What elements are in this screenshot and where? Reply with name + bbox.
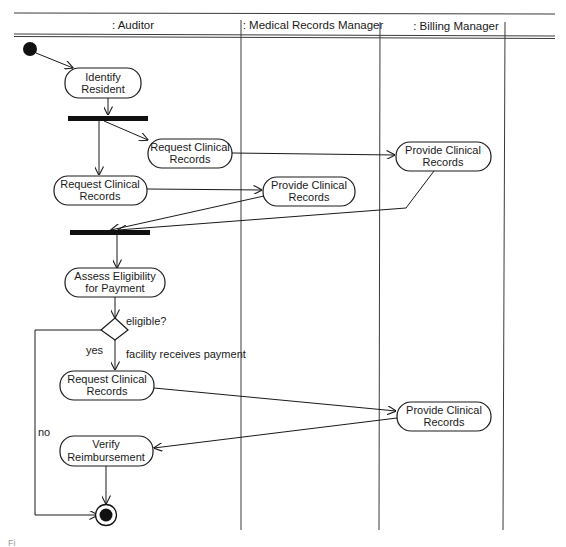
lane-separator-2 [379, 22, 380, 530]
header-divider-2 [14, 37, 555, 39]
edge-fork-request-a [104, 121, 148, 140]
swimlane-header: : Auditor : Medical Records Manager : Bi… [14, 13, 555, 39]
header-divider-1 [14, 34, 555, 36]
top-border [14, 13, 555, 14]
svg-text:Records: Records [289, 191, 330, 203]
action-assess-eligibility: Assess Eligibility for Payment [65, 268, 165, 297]
svg-text:Records: Records [423, 156, 464, 168]
guard-facility-payment: facility receives payment [126, 348, 246, 360]
final-node [96, 505, 117, 526]
guard-no: no [38, 426, 50, 438]
lane-label-medical-records-manager: : Medical Records Manager [243, 19, 384, 31]
lane-separator-3 [503, 22, 505, 530]
svg-text:Records: Records [87, 385, 128, 397]
edge-provide-bm2-verify [154, 418, 397, 448]
initial-node [23, 42, 37, 56]
svg-text:Records: Records [170, 153, 211, 165]
figure-caption-fragment: Fi [8, 538, 16, 547]
svg-text:Request Clinical: Request Clinical [150, 141, 229, 153]
svg-text:Provide Clinical: Provide Clinical [405, 144, 481, 156]
edge-start-identify [36, 53, 73, 68]
action-provide-records-billing-2: Provide Clinical Records [397, 402, 491, 431]
svg-text:Records: Records [80, 190, 121, 202]
action-identify-resident: Identify Resident [65, 68, 141, 98]
decision-label: eligible? [126, 315, 166, 327]
action-verify-reimbursement: Verify Reimbursement [60, 436, 153, 466]
edge-request-c-provide-bm2 [154, 388, 396, 411]
action-provide-records-mrm: Provide Clinical Records [263, 177, 355, 206]
edge-request-b-provide-mrm [147, 189, 262, 190]
svg-text:Verify: Verify [92, 438, 120, 450]
svg-text:Resident: Resident [81, 83, 124, 95]
svg-text:Records: Records [424, 416, 465, 428]
fork-bar [68, 116, 148, 121]
edge-request-a-provide-bm1 [232, 153, 395, 155]
lane-label-auditor: : Auditor [112, 19, 154, 31]
svg-text:for Payment: for Payment [85, 282, 144, 294]
join-bar [70, 230, 150, 235]
guard-yes: yes [86, 344, 104, 356]
svg-text:Provide Clinical: Provide Clinical [271, 179, 347, 191]
svg-text:Identify: Identify [85, 71, 121, 83]
edge-decision-no [35, 330, 101, 515]
action-request-records-c: Request Clinical Records [60, 371, 154, 400]
svg-text:Request Clinical: Request Clinical [67, 373, 146, 385]
decision-diamond [101, 318, 128, 340]
svg-text:Request Clinical: Request Clinical [60, 178, 139, 190]
action-request-records-a: Request Clinical Records [148, 139, 232, 168]
svg-text:Assess Eligibility: Assess Eligibility [74, 270, 156, 282]
svg-text:Provide Clinical: Provide Clinical [406, 404, 482, 416]
svg-text:Reimbursement: Reimbursement [67, 451, 145, 463]
activity-diagram: : Auditor : Medical Records Manager : Bi… [0, 0, 566, 547]
action-request-records-b: Request Clinical Records [54, 176, 147, 205]
lane-label-billing-manager: : Billing Manager [413, 20, 499, 32]
action-provide-records-billing-1: Provide Clinical Records [396, 142, 491, 171]
